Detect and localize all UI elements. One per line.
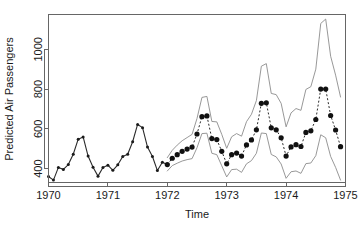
- observed-data-point: [92, 166, 95, 169]
- forecast-data-point: [244, 142, 249, 147]
- observed-data-point: [52, 179, 55, 182]
- forecast-data-point: [254, 127, 259, 132]
- x-axis-title: Time: [185, 208, 209, 220]
- forecast-data-point: [269, 125, 274, 130]
- observed-data-point: [151, 155, 154, 158]
- observed-data-point: [62, 168, 65, 171]
- observed-data-point: [161, 161, 164, 164]
- forecast-data-point: [234, 150, 239, 155]
- forecast-data-point: [333, 127, 338, 132]
- y-axis-tick-label: 800: [32, 80, 44, 98]
- x-axis-tick-label: 1972: [155, 189, 179, 201]
- forecast-data-point: [180, 149, 185, 154]
- x-axis-tick-label: 1974: [274, 189, 298, 201]
- forecast-data-point: [185, 147, 190, 152]
- observed-data-point: [67, 163, 70, 166]
- forecast-data-point: [165, 162, 170, 167]
- forecast-data-point: [214, 137, 219, 142]
- y-axis-tick-label: 600: [32, 120, 44, 138]
- forecast-data-point: [264, 100, 269, 105]
- x-axis-tick-label: 1970: [36, 189, 60, 201]
- observed-data-point: [106, 164, 109, 167]
- forecast-data-point: [288, 144, 293, 149]
- observed-data-point: [77, 138, 80, 141]
- observed-data-point: [72, 153, 75, 156]
- observed-data-point: [136, 123, 139, 126]
- forecast-data-point: [204, 113, 209, 118]
- observed-data-point: [141, 126, 144, 129]
- x-axis-tick-label: 1975: [333, 189, 357, 201]
- forecast-data-point: [259, 101, 264, 106]
- forecast-data-point: [293, 142, 298, 147]
- forecast-data-point: [298, 144, 303, 149]
- y-axis-title: Predicted Air Passengers: [3, 37, 15, 161]
- forecast-data-point: [219, 149, 224, 154]
- forecast-data-point: [239, 153, 244, 158]
- chart-container: 197019711972197319741975 4006008001000 T…: [0, 0, 362, 225]
- forecast-data-point: [229, 152, 234, 157]
- forecast-data-point: [308, 128, 313, 133]
- forecast-data-point: [303, 130, 308, 135]
- observed-data-point: [146, 146, 149, 149]
- forecast-data-point: [323, 86, 328, 91]
- observed-data-point: [82, 135, 85, 138]
- forecast-data-point: [199, 114, 204, 119]
- x-axis-tick-label: 1973: [214, 189, 238, 201]
- observed-data-point: [87, 155, 90, 158]
- observed-data-point: [111, 169, 114, 172]
- observed-data-point: [97, 175, 100, 178]
- forecast-data-point: [189, 145, 194, 150]
- observed-data-point: [101, 166, 104, 169]
- observed-data-point: [126, 153, 129, 156]
- forecast-data-point: [209, 136, 214, 141]
- forecast-data-point: [284, 153, 289, 158]
- observed-data-point: [131, 140, 134, 143]
- forecast-data-point: [170, 156, 175, 161]
- time-series-forecast-chart: 197019711972197319741975 4006008001000 T…: [0, 0, 362, 225]
- y-axis-tick-label: 400: [32, 159, 44, 177]
- forecast-data-point: [279, 135, 284, 140]
- forecast-data-point: [318, 86, 323, 91]
- forecast-data-point: [224, 161, 229, 166]
- forecast-data-point: [338, 144, 343, 149]
- observed-data-point: [121, 155, 124, 158]
- observed-data-point: [57, 166, 60, 169]
- observed-data-point: [156, 169, 159, 172]
- x-axis-tick-label: 1971: [96, 189, 120, 201]
- forecast-data-point: [194, 131, 199, 136]
- forecast-data-point: [274, 127, 279, 132]
- forecast-data-point: [328, 113, 333, 118]
- forecast-data-point: [175, 152, 180, 157]
- observed-data-point: [116, 163, 119, 166]
- y-axis-tick-label: 1000: [32, 37, 44, 61]
- forecast-data-point: [313, 117, 318, 122]
- forecast-data-point: [249, 137, 254, 142]
